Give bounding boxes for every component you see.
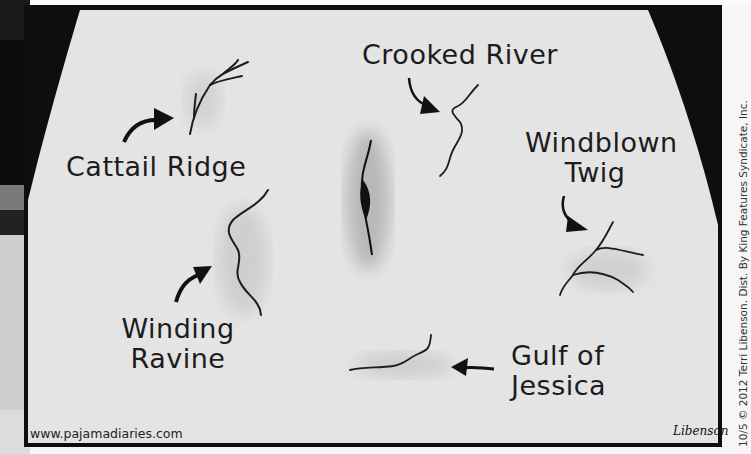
label-cattail-ridge: Cattail Ridge [66, 152, 246, 182]
crooked-river-line [440, 85, 478, 176]
gulf-of-jessica-arrow [451, 358, 494, 376]
label-ravine: Ravine [113, 344, 243, 374]
label-winding: Winding [113, 314, 243, 344]
skin-area: Cattail Ridge Crooked River Windblown Tw… [28, 10, 718, 443]
winding-ravine-arrow [176, 266, 212, 302]
copyright-notice: 10/5 © 2012 Terri Libenson. Dist. By Kin… [737, 100, 749, 447]
label-crooked-river: Crooked River [362, 40, 558, 70]
label-jessica: Jessica [511, 371, 606, 401]
label-gulf-of-jessica: Gulf of Jessica [511, 341, 606, 401]
label-winding-ravine: Winding Ravine [113, 314, 243, 374]
label-windblown: Windblown [525, 128, 665, 158]
windblown-twig-arrow [563, 196, 588, 232]
website-credit: www.pajamadiaries.com [30, 426, 183, 441]
right-shadow-shape [648, 10, 718, 225]
crooked-river-arrow [409, 78, 440, 114]
label-twig: Twig [525, 158, 665, 188]
label-gulf-of: Gulf of [511, 341, 606, 371]
panel-drawing [28, 10, 718, 443]
label-windblown-twig: Windblown Twig [525, 128, 665, 188]
cattail-arrow [124, 108, 174, 142]
artist-signature: Libenson [673, 424, 728, 438]
